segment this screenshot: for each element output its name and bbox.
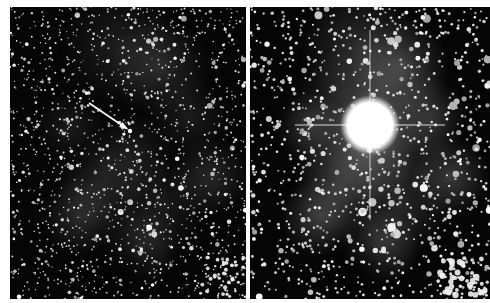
photo-panel-before [10,7,246,299]
starfield-image-before [10,7,246,299]
starfield-image-after [250,7,490,299]
photo-panel-after [250,7,490,299]
